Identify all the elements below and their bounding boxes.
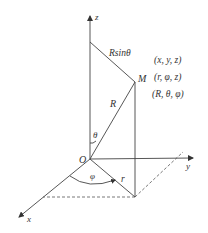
cartesian-coordinates: (x, y, z) — [154, 55, 181, 66]
coordinate-diagram: z y x O M Rsinθ R r θ φ (x, y, z) (r, φ,… — [0, 0, 208, 233]
phi-label: φ — [90, 171, 95, 181]
theta-label: θ — [93, 130, 98, 140]
cylindrical-coordinates: (r, φ, z) — [154, 72, 181, 83]
origin-label: O — [79, 154, 86, 165]
x-axis-label: x — [26, 214, 31, 224]
theta-arc — [90, 141, 96, 143]
y-axis-label: y — [185, 161, 190, 171]
r-projection-line — [90, 159, 135, 197]
radius-label: R — [109, 98, 116, 109]
rsin-theta-label: Rsinθ — [108, 48, 131, 58]
z-axis-label: z — [94, 12, 99, 22]
y-axis — [90, 158, 193, 159]
x-axis — [19, 159, 90, 217]
spherical-coordinates: (R, θ, φ) — [152, 89, 184, 100]
radius-line — [90, 82, 135, 159]
point-m-label: M — [137, 73, 147, 84]
r-label: r — [121, 174, 125, 184]
